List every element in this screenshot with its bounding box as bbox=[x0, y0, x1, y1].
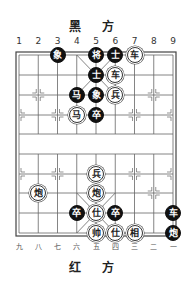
red-piece[interactable]: 炮 bbox=[88, 185, 104, 201]
bottom-column-label: 五 bbox=[89, 241, 103, 251]
red-side-label: 红 方 bbox=[0, 258, 191, 275]
bottom-column-label: 一 bbox=[166, 241, 180, 251]
bottom-column-label: 八 bbox=[31, 241, 45, 251]
red-piece[interactable]: 兵 bbox=[88, 166, 104, 182]
bottom-column-label: 二 bbox=[147, 241, 161, 251]
black-piece[interactable]: 士 bbox=[88, 67, 104, 83]
red-piece[interactable]: 马 bbox=[69, 107, 85, 123]
bottom-column-labels: 九八七六五四三二一 bbox=[0, 241, 191, 253]
red-piece[interactable]: 帅 bbox=[88, 225, 104, 241]
black-piece[interactable]: 象 bbox=[50, 47, 66, 63]
black-piece[interactable]: 炮 bbox=[165, 225, 181, 241]
black-piece[interactable]: 将 bbox=[88, 47, 104, 63]
bottom-column-label: 九 bbox=[12, 241, 26, 251]
bottom-column-label: 四 bbox=[108, 241, 122, 251]
black-piece[interactable]: 卒 bbox=[88, 107, 104, 123]
black-piece[interactable]: 象 bbox=[88, 87, 104, 103]
red-piece[interactable]: 仕 bbox=[88, 205, 104, 221]
black-piece[interactable]: 卒 bbox=[69, 205, 85, 221]
red-piece[interactable]: 相 bbox=[127, 225, 143, 241]
bottom-column-label: 三 bbox=[128, 241, 142, 251]
black-piece[interactable]: 车 bbox=[165, 205, 181, 221]
bottom-column-label: 七 bbox=[51, 241, 65, 251]
bottom-column-label: 六 bbox=[70, 241, 84, 251]
black-piece[interactable]: 马 bbox=[69, 87, 85, 103]
red-piece[interactable]: 车 bbox=[127, 47, 143, 63]
